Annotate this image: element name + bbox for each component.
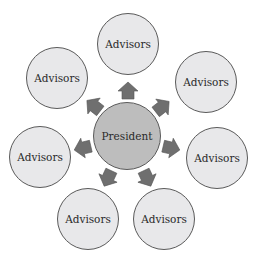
arrow-icon — [161, 136, 182, 159]
arrow-icon — [135, 167, 160, 191]
president-label: President — [102, 130, 153, 142]
advisor-node-top: Advisors — [97, 13, 159, 75]
advisor-node-upper-right: Advisors — [175, 51, 237, 113]
president-node: President — [93, 102, 161, 170]
arrow-icon — [118, 82, 138, 99]
advisor-label: Advisors — [34, 72, 80, 84]
advisor-label: Advisors — [65, 213, 111, 225]
advisor-label: Advisors — [105, 38, 151, 50]
advisor-label: Advisors — [17, 151, 63, 163]
arrow-icon — [95, 167, 120, 191]
advisor-node-left: Advisors — [9, 126, 71, 188]
advisor-label: Advisors — [194, 152, 240, 164]
advisor-node-right: Advisors — [186, 127, 248, 189]
advisor-label: Advisors — [141, 213, 187, 225]
arrow-icon — [72, 136, 93, 159]
advisor-label: Advisors — [183, 76, 229, 88]
advisor-node-bottom-left: Advisors — [57, 188, 119, 250]
advisor-node-upper-left: Advisors — [26, 47, 88, 109]
advisor-node-bottom-right: Advisors — [133, 188, 195, 250]
